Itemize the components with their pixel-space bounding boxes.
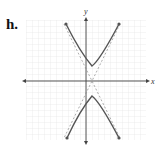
- y-axis-top-arrow-icon: [84, 17, 88, 21]
- arrow-endpoint-icon: [65, 136, 68, 139]
- y-axis-label: y: [83, 7, 88, 16]
- x-axis-left-arrow-icon: [22, 79, 26, 83]
- x-axis-label: x: [150, 77, 155, 86]
- arrow-endpoint-icon: [117, 136, 120, 139]
- hyperbola-graph: x y: [0, 0, 168, 152]
- y-axis-bottom-arrow-icon: [84, 141, 88, 145]
- arrow-endpoint-icon: [64, 22, 67, 25]
- arrow-endpoint-icon: [117, 22, 120, 25]
- x-axis-right-arrow-icon: [146, 79, 150, 83]
